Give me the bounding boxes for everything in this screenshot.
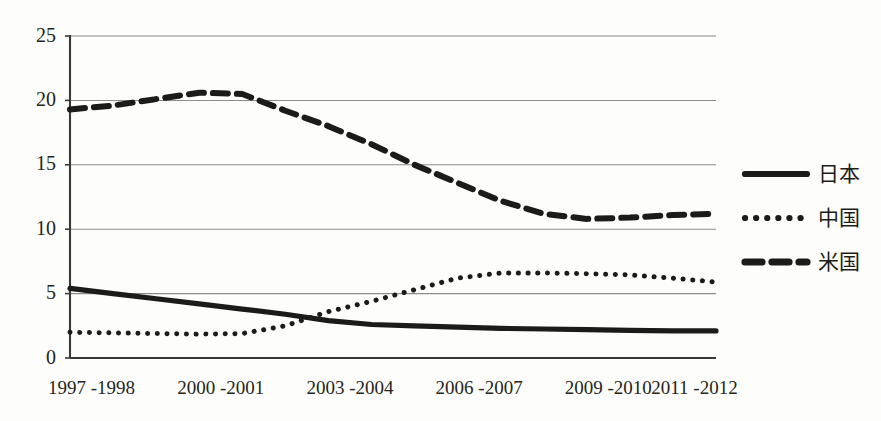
chart-legend: 日本中国米国 [745,162,860,273]
y-tick-label: 0 [46,346,56,368]
grid-lines [70,36,716,294]
chart-figure: 0510152025 1997 -19982000 -20012003 -200… [0,0,881,421]
y-tick-label: 5 [46,281,56,303]
x-tick-labels: 1997 -19982000 -20012003 -20042006 -2007… [48,377,738,398]
line-chart: 0510152025 1997 -19982000 -20012003 -200… [0,0,881,421]
legend-item: 日本 [745,162,860,185]
x-tick-label: 2000 -2001 [177,377,264,398]
x-tick-label: 2006 -2007 [436,377,523,398]
legend-label: 中国 [818,206,860,229]
legend-item: 中国 [745,206,860,229]
data-series [70,93,716,335]
y-tick-labels: 0510152025 [36,24,70,368]
legend-item: 米国 [745,250,860,273]
x-tick-label: 2011 -2012 [651,377,737,398]
legend-label: 米国 [818,250,860,273]
y-tick-label: 20 [36,88,56,110]
legend-label: 日本 [818,162,860,185]
x-tick-label: 2009 -2010 [565,377,652,398]
y-tick-label: 10 [36,217,56,239]
series-line-dashed [70,93,716,219]
x-tick-label: 2003 -2004 [306,377,394,398]
x-tick-label: 1997 -1998 [48,377,135,398]
y-tick-label: 15 [36,152,56,174]
y-tick-label: 25 [36,24,56,46]
